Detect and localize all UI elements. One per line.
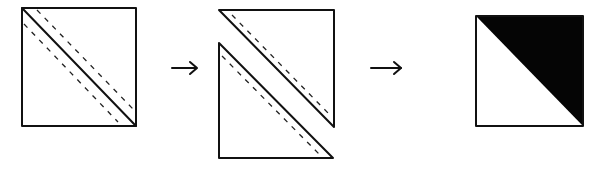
seam-line-lower-triangle bbox=[222, 56, 320, 155]
step-3-half-square-triangle bbox=[476, 16, 583, 126]
diagonal-cut-line bbox=[22, 8, 136, 126]
step-1-square-with-seams bbox=[22, 8, 136, 126]
arrow-right-icon bbox=[371, 62, 401, 74]
diagram-canvas bbox=[0, 0, 597, 171]
seam-line-upper bbox=[37, 10, 133, 109]
seam-line-upper-triangle bbox=[232, 15, 329, 114]
step-2-cut-triangles bbox=[219, 10, 334, 158]
seam-line-lower bbox=[24, 24, 118, 122]
upper-right-triangle bbox=[219, 10, 334, 127]
arrow-right-icon bbox=[172, 62, 197, 74]
lower-left-triangle bbox=[219, 43, 333, 158]
